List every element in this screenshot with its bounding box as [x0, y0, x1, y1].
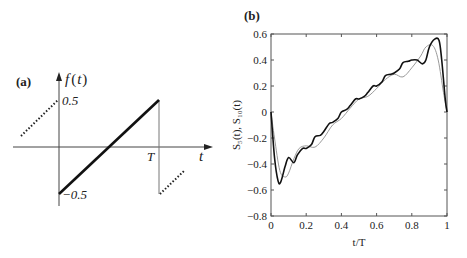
curves	[271, 38, 447, 184]
series-s10t	[271, 38, 447, 184]
x-tick-label: 0.8	[405, 219, 419, 231]
x-tick-label: 0.4	[335, 219, 349, 231]
y-tick-label: −0.2	[247, 132, 267, 144]
series-s5t	[271, 45, 447, 177]
tick-T: T	[147, 149, 155, 164]
xlabel-t: t	[199, 148, 204, 164]
y-axis-label: S₅(t), S₁₀(t)	[230, 100, 243, 150]
panel-b-label: (b)	[244, 8, 260, 23]
x-tick-label: 0.2	[299, 219, 313, 231]
y-tick-label: 0.4	[253, 54, 267, 66]
panel-a: (a) f(t) 0.5 −0.5 T t	[13, 71, 213, 206]
y-tick-label: 0	[262, 106, 268, 118]
panel-a-label: (a)	[16, 74, 31, 89]
y-tick-label: −0.4	[247, 158, 267, 170]
tick-bottom: −0.5	[62, 187, 88, 202]
plot-frame	[271, 34, 447, 216]
figure: (a) f(t) 0.5 −0.5 T t (b) 00.20.40.60.81…	[0, 0, 467, 258]
x-tick-label: 1	[444, 219, 450, 231]
x-axis-arrow-icon	[204, 144, 213, 150]
y-axis-arrow-icon	[56, 72, 62, 81]
previous-period-dotted	[21, 100, 58, 136]
y-tick-label: −0.8	[247, 210, 267, 222]
y-tick-label: −0.6	[247, 184, 267, 196]
y-tick-label: 0.2	[253, 80, 267, 92]
tick-top: 0.5	[62, 93, 79, 108]
panel-b: (b) 00.20.40.60.810.60.40.20−0.2−0.4−0.6…	[230, 8, 450, 248]
x-tick-label: 0	[268, 219, 274, 231]
x-axis-label: t/T	[353, 236, 366, 248]
y-tick-label: 0.6	[253, 28, 267, 40]
x-tick-label: 0.6	[370, 219, 384, 231]
ylabel-f: f(t)	[65, 71, 87, 88]
next-period-dotted	[160, 170, 185, 194]
